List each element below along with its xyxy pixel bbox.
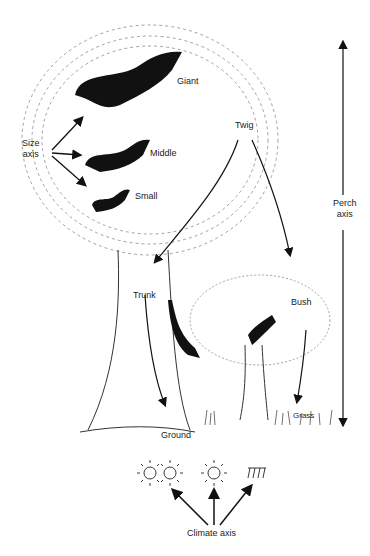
label-small: Small — [135, 191, 158, 202]
label-ground: Ground — [161, 430, 191, 441]
lizard-silhouettes — [75, 52, 276, 358]
shade-icon — [248, 468, 266, 478]
label-trunk: Trunk — [133, 290, 156, 301]
label-twig: Twig — [235, 120, 254, 131]
label-bush: Bush — [291, 297, 312, 308]
label-grass: Grass — [293, 410, 314, 421]
giant-lizard — [75, 52, 182, 107]
label-perch-axis: Perch axis — [333, 198, 357, 220]
size-axis-arrows — [52, 118, 85, 185]
label-climate-axis: Climate axis — [187, 528, 236, 539]
middle-lizard — [85, 140, 150, 172]
climate-axis-arrows — [173, 486, 251, 525]
trunk-lizard — [168, 300, 200, 358]
double-sun-icon — [137, 460, 183, 486]
label-size-axis: Size axis — [22, 138, 40, 160]
bush-lizard — [248, 315, 276, 345]
climate-icons — [137, 460, 266, 486]
label-middle: Middle — [150, 148, 177, 159]
anole-ecomorph-diagram: Giant Middle Small Size axis Twig Trunk … — [0, 0, 370, 556]
sun-icon — [201, 460, 227, 486]
small-lizard — [92, 189, 130, 212]
label-giant: Giant — [177, 76, 199, 87]
